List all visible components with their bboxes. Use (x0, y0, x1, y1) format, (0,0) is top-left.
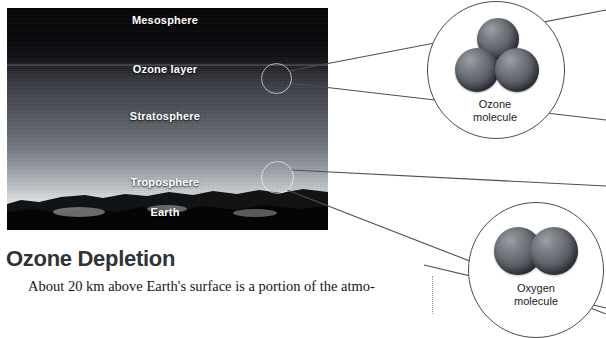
oxygen-atom-sphere (530, 227, 578, 275)
ozone-atom-sphere (455, 48, 499, 92)
layer-label-mesosphere: Mesosphere (132, 14, 198, 26)
oxygen-molecule-model (494, 227, 578, 275)
layer-label-ozone-layer: Ozone layer (133, 63, 198, 75)
oxygen-caption-line2: molecule (514, 295, 558, 308)
zoom-source-circle-ozone-layer (261, 63, 292, 94)
column-divider-dotted (432, 276, 433, 314)
ozone-molecule-caption: Ozone molecule (473, 98, 517, 124)
ozone-atom-sphere (495, 48, 539, 92)
layer-label-troposphere: Troposphere (131, 176, 200, 188)
article-paragraph: About 20 km above Earth's surface is a p… (6, 277, 418, 295)
oxygen-molecule-caption: Oxygen molecule (514, 282, 558, 308)
zoom-source-circle-troposphere (261, 161, 294, 194)
layer-label-earth: Earth (150, 206, 179, 218)
article-body-column: About 20 km above Earth's surface is a p… (6, 277, 418, 295)
ozone-caption-line1: Ozone (473, 98, 517, 111)
ozone-caption-line2: molecule (473, 111, 517, 124)
section-heading: Ozone Depletion (6, 246, 175, 272)
ozone-molecule-model (455, 18, 539, 96)
layer-label-stratosphere: Stratosphere (130, 110, 200, 122)
oxygen-caption-line1: Oxygen (514, 282, 558, 295)
